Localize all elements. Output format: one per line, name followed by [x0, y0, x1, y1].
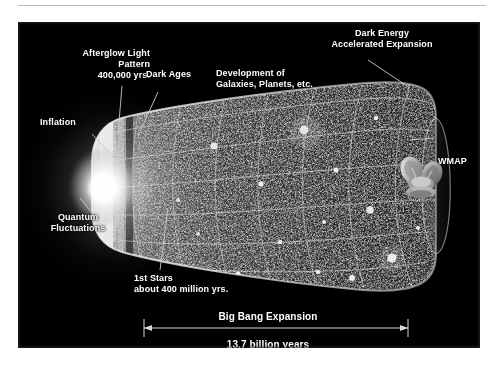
label-wmap: WMAP — [438, 156, 480, 167]
label-inflation: Inflation — [40, 117, 112, 128]
label-dark-ages: Dark Ages — [146, 69, 216, 80]
label-afterglow-light-pattern: Afterglow Light Pattern 400,000 yrs. — [34, 48, 150, 81]
label-first-stars: 1st Stars about 400 million yrs. — [134, 273, 274, 295]
label-quantum-fluctuations: Quantum Fluctuations — [36, 212, 120, 234]
label-dark-energy-accelerated-expansion: Dark Energy Accelerated Expansion — [310, 28, 454, 50]
wmap-satellite-icon — [394, 144, 450, 206]
figure-panel: Afterglow Light Pattern 400,000 yrs. Dar… — [18, 22, 480, 348]
page-top-rule — [18, 5, 486, 6]
label-universe-age: 13.7 billion years — [168, 339, 368, 348]
label-big-bang-expansion: Big Bang Expansion — [168, 311, 368, 322]
figure-page: Afterglow Light Pattern 400,000 yrs. Dar… — [0, 0, 498, 371]
label-development-of-galaxies: Development of Galaxies, Planets, etc. — [216, 68, 336, 90]
